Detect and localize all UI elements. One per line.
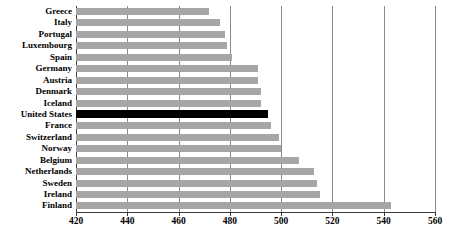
bar-spain	[76, 54, 232, 61]
bar-row	[0, 17, 452, 28]
bar-row	[0, 6, 452, 17]
x-axis-line	[76, 212, 436, 213]
tick-mark-420	[76, 212, 77, 216]
x-tick-label: 440	[120, 216, 134, 226]
bar-row	[0, 155, 452, 166]
bar-denmark	[76, 88, 261, 95]
x-tick-label: 540	[377, 216, 391, 226]
bar-row	[0, 178, 452, 189]
bar-belgium	[76, 157, 299, 164]
bar-switzerland	[76, 134, 279, 141]
bar-greece	[76, 8, 209, 15]
bar-luxembourg	[76, 42, 227, 49]
bar-row	[0, 98, 452, 109]
bar-row	[0, 200, 452, 211]
bar-row	[0, 132, 452, 143]
bar-portugal	[76, 31, 225, 38]
bar-row	[0, 189, 452, 200]
x-tick-label: 420	[69, 216, 83, 226]
bar-row	[0, 63, 452, 74]
bar-france	[76, 122, 271, 129]
bar-ireland	[76, 191, 320, 198]
bar-netherlands	[76, 168, 314, 175]
x-tick-label: 460	[171, 216, 185, 226]
bar-row	[0, 143, 452, 154]
x-tick-label: 560	[428, 216, 442, 226]
bar-austria	[76, 77, 258, 84]
x-tick-label: 480	[223, 216, 237, 226]
bar-row	[0, 52, 452, 63]
bar-row	[0, 166, 452, 177]
tick-mark-540	[384, 212, 385, 216]
bar-iceland	[76, 100, 261, 107]
tick-mark-440	[127, 212, 128, 216]
tick-mark-460	[179, 212, 180, 216]
tick-mark-480	[230, 212, 231, 216]
bar-row	[0, 40, 452, 51]
tick-mark-500	[281, 212, 282, 216]
bar-row	[0, 86, 452, 97]
bar-norway	[76, 145, 281, 152]
bar-finland	[76, 202, 391, 209]
x-tick-label: 520	[325, 216, 339, 226]
bar-chart: GreeceItalyPortugalLuxembourgSpainGerman…	[0, 0, 452, 240]
bar-row	[0, 29, 452, 40]
bar-germany	[76, 65, 258, 72]
bar-row	[0, 109, 452, 120]
bar-row	[0, 75, 452, 86]
bar-italy	[76, 19, 220, 26]
bar-united-states	[76, 110, 268, 118]
x-tick-label: 500	[274, 216, 288, 226]
bar-row	[0, 120, 452, 131]
bar-sweden	[76, 180, 317, 187]
tick-mark-560	[435, 212, 436, 216]
tick-mark-520	[332, 212, 333, 216]
